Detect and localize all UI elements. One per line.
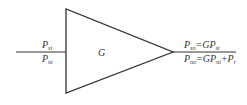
output-noise-power-label: Pno=GPni+Pr — [184, 54, 236, 67]
label-tail-sub: r — [234, 59, 236, 65]
amplifier-triangle — [66, 9, 173, 93]
label-eq: =GP — [196, 53, 216, 64]
input-noise-power-label: Pni — [42, 54, 53, 67]
gain-label: G — [98, 48, 105, 58]
input-signal-power-label: Psi — [42, 40, 52, 53]
label-sub: ni — [48, 59, 53, 65]
label-tail: +P — [221, 53, 234, 64]
label-eq: =GP — [195, 39, 215, 50]
label-sub: si — [48, 45, 52, 51]
output-signal-power-label: Pso=GPsi — [184, 40, 220, 53]
label-eq-sub: si — [216, 45, 220, 51]
